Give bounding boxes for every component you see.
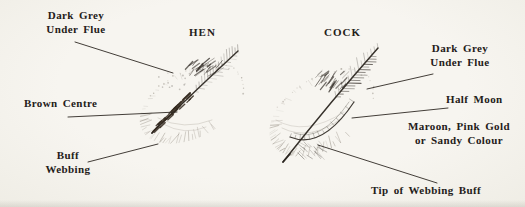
cock-feather-illustration <box>270 44 378 162</box>
hen-buff-webbing-line1: Buff <box>18 148 118 162</box>
cock-maroon-colour-label: Maroon, Pink Gold or Sandy Colour <box>396 119 522 147</box>
hen-feather-illustration <box>140 45 244 143</box>
hen-under-flue-label: Dark Grey Under Flue <box>26 8 126 36</box>
hen-buff-webbing-label: Buff Webbing <box>18 148 118 176</box>
hen-under-flue-line2: Under Flue <box>26 22 126 36</box>
cock-tip-webbing-label: Tip of Webbing Buff <box>371 183 481 197</box>
feather-diagram-page: Dark Grey Under Flue HEN Brown Centre Bu… <box>0 0 525 207</box>
hen-brown-centre-label: Brown Centre <box>24 96 97 110</box>
cock-under-flue-line1: Dark Grey <box>410 41 510 55</box>
cock-half-moon-label: Half Moon <box>446 92 503 106</box>
cock-title: COCK <box>324 25 361 39</box>
hen-under-flue-line1: Dark Grey <box>26 8 126 22</box>
page-bottom-shadow <box>0 200 525 207</box>
cock-under-flue-label: Dark Grey Under Flue <box>410 41 510 69</box>
hen-title: HEN <box>189 25 216 39</box>
hen-buff-webbing-line2: Webbing <box>18 162 118 176</box>
cock-maroon-line1: Maroon, Pink Gold <box>396 119 522 133</box>
cock-under-flue-line2: Under Flue <box>410 55 510 69</box>
cock-maroon-line2: or Sandy Colour <box>396 133 522 147</box>
leader-lines <box>68 42 448 183</box>
